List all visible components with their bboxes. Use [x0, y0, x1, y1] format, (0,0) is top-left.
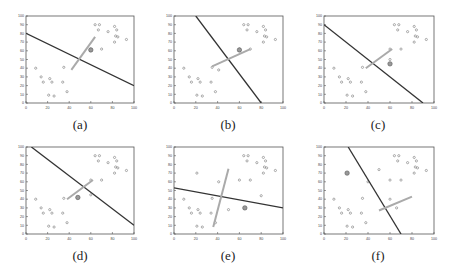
x-tick-label: 80	[110, 237, 114, 241]
x-tick-label: 20	[344, 237, 348, 241]
y-tick-label: 100	[166, 14, 172, 18]
y-tick-label: 20	[20, 215, 24, 219]
caption-b: (b)	[198, 117, 258, 133]
x-tick-label: 40	[67, 106, 71, 110]
y-tick-label: 20	[318, 84, 322, 88]
x-tick-label: 100	[131, 106, 137, 110]
y-tick-label: 40	[20, 197, 24, 201]
y-tick-label: 20	[168, 84, 172, 88]
y-tick-label: 90	[168, 23, 172, 27]
scatter-panel-f: 0204060801000102030405060708090100	[316, 145, 437, 241]
x-tick-label: 0	[323, 106, 325, 110]
y-tick-label: 10	[20, 93, 24, 97]
y-tick-label: 100	[166, 145, 172, 149]
x-tick-label: 0	[323, 237, 325, 241]
x-tick-label: 20	[194, 106, 198, 110]
y-tick-label: 90	[318, 23, 322, 27]
x-tick-label: 100	[280, 237, 286, 241]
x-tick-label: 80	[410, 237, 414, 241]
x-tick-label: 40	[67, 237, 71, 241]
y-tick-label: 60	[318, 180, 322, 184]
x-tick-label: 20	[344, 106, 348, 110]
y-tick-label: 40	[318, 66, 322, 70]
x-tick-label: 20	[46, 106, 50, 110]
y-tick-label: 40	[168, 197, 172, 201]
x-tick-label: 100	[280, 106, 286, 110]
y-tick-label: 30	[20, 206, 24, 210]
y-tick-label: 10	[168, 224, 172, 228]
y-tick-label: 50	[318, 189, 322, 193]
y-tick-label: 20	[168, 215, 172, 219]
x-tick-label: 20	[46, 237, 50, 241]
x-tick-label: 0	[173, 237, 175, 241]
y-tick-label: 50	[20, 189, 24, 193]
caption-d: (d)	[50, 248, 110, 264]
y-tick-label: 60	[20, 180, 24, 184]
y-tick-label: 50	[318, 58, 322, 62]
y-tick-label: 10	[318, 224, 322, 228]
scatter-panel-e: 0204060801000102030405060708090100	[166, 145, 286, 241]
plot-frame	[324, 147, 434, 234]
x-tick-label: 20	[194, 237, 198, 241]
scatter-panel-a: 0204060801000102030405060708090100	[18, 14, 137, 110]
x-tick-label: 60	[89, 106, 93, 110]
y-tick-label: 0	[170, 232, 172, 236]
y-tick-label: 80	[318, 32, 322, 36]
y-tick-label: 80	[168, 163, 172, 167]
y-tick-label: 90	[20, 154, 24, 158]
x-tick-label: 0	[173, 106, 175, 110]
y-tick-label: 70	[20, 40, 24, 44]
x-tick-label: 0	[25, 237, 27, 241]
x-tick-label: 60	[237, 237, 241, 241]
y-tick-label: 60	[318, 49, 322, 53]
y-tick-label: 0	[320, 101, 322, 105]
x-tick-label: 80	[110, 106, 114, 110]
caption-f: (f)	[348, 248, 408, 264]
y-tick-label: 100	[316, 14, 322, 18]
y-tick-label: 80	[318, 163, 322, 167]
highlighted-point	[89, 48, 93, 52]
y-tick-label: 70	[168, 171, 172, 175]
x-tick-label: 40	[366, 237, 370, 241]
x-tick-label: 60	[237, 106, 241, 110]
y-tick-label: 50	[168, 58, 172, 62]
x-tick-label: 0	[25, 106, 27, 110]
y-tick-label: 20	[20, 84, 24, 88]
y-tick-label: 100	[316, 145, 322, 149]
x-tick-label: 100	[431, 237, 437, 241]
x-tick-label: 100	[431, 106, 437, 110]
scatter-panel-c: 0204060801000102030405060708090100	[316, 14, 437, 110]
y-tick-label: 90	[20, 23, 24, 27]
y-tick-label: 30	[168, 206, 172, 210]
x-tick-label: 40	[366, 106, 370, 110]
y-tick-label: 100	[18, 14, 24, 18]
x-tick-label: 80	[410, 106, 414, 110]
y-tick-label: 20	[318, 215, 322, 219]
x-tick-label: 60	[388, 237, 392, 241]
y-tick-label: 40	[20, 66, 24, 70]
y-tick-label: 90	[318, 154, 322, 158]
x-tick-label: 40	[216, 106, 220, 110]
scatter-panel-d: 0204060801000102030405060708090100	[18, 145, 137, 241]
y-tick-label: 80	[168, 32, 172, 36]
y-tick-label: 80	[20, 32, 24, 36]
highlighted-point	[243, 206, 247, 210]
x-tick-label: 80	[259, 237, 263, 241]
x-tick-label: 100	[131, 237, 137, 241]
y-tick-label: 0	[320, 232, 322, 236]
x-tick-label: 40	[216, 237, 220, 241]
caption-a: (a)	[50, 117, 110, 133]
y-tick-label: 0	[22, 101, 24, 105]
highlighted-point	[76, 195, 80, 199]
y-tick-label: 30	[20, 75, 24, 79]
y-tick-label: 10	[168, 93, 172, 97]
y-tick-label: 0	[22, 232, 24, 236]
caption-e: (e)	[198, 248, 258, 264]
y-tick-label: 90	[168, 154, 172, 158]
y-tick-label: 70	[318, 40, 322, 44]
y-tick-label: 60	[168, 180, 172, 184]
y-tick-label: 30	[318, 75, 322, 79]
y-tick-label: 100	[18, 145, 24, 149]
y-tick-label: 70	[20, 171, 24, 175]
y-tick-label: 30	[168, 75, 172, 79]
